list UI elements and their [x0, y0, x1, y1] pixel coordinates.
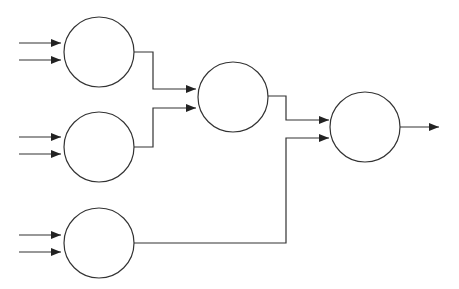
node-3 [64, 208, 134, 278]
node-5 [330, 92, 400, 162]
node-1 [64, 17, 134, 87]
edge-n3-n5 [134, 138, 329, 243]
diagram-canvas [0, 0, 459, 289]
edge-n4-n5 [268, 96, 329, 120]
edge-n2-n4 [134, 108, 196, 147]
node-4 [198, 62, 268, 132]
edge-n1-n4 [134, 52, 196, 89]
node-2 [64, 112, 134, 182]
network-diagram [0, 0, 459, 289]
input-arrows [19, 43, 61, 252]
